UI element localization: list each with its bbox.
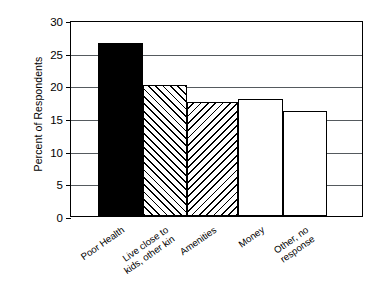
y-tick-mark-0	[66, 218, 71, 219]
bar-3	[187, 102, 238, 216]
y-tick-label-15: 15	[50, 114, 63, 126]
y-tick-mark-5	[66, 185, 71, 186]
bar-1	[98, 43, 143, 216]
y-tick-mark-30	[66, 22, 71, 23]
y-tick-label-20: 20	[50, 81, 63, 93]
y-tick-mark-15	[66, 120, 71, 121]
y-tick-mark-20	[66, 87, 71, 88]
y-tick-label-0: 0	[57, 212, 63, 224]
plot-area: 051015202530	[70, 21, 363, 217]
bar-2	[143, 85, 187, 216]
y-tick-mark-10	[66, 153, 71, 154]
y-tick-mark-25	[66, 55, 71, 56]
y-axis-title: Percent of Respondents	[32, 24, 44, 204]
y-tick-label-25: 25	[50, 49, 63, 61]
y-tick-label-10: 10	[50, 147, 63, 159]
bar-chart: Percent of Respondents 051015202530 Poor…	[0, 0, 381, 291]
bar-5	[283, 111, 327, 216]
y-tick-label-5: 5	[57, 179, 63, 191]
y-tick-label-30: 30	[50, 16, 63, 28]
bar-4	[238, 99, 283, 216]
